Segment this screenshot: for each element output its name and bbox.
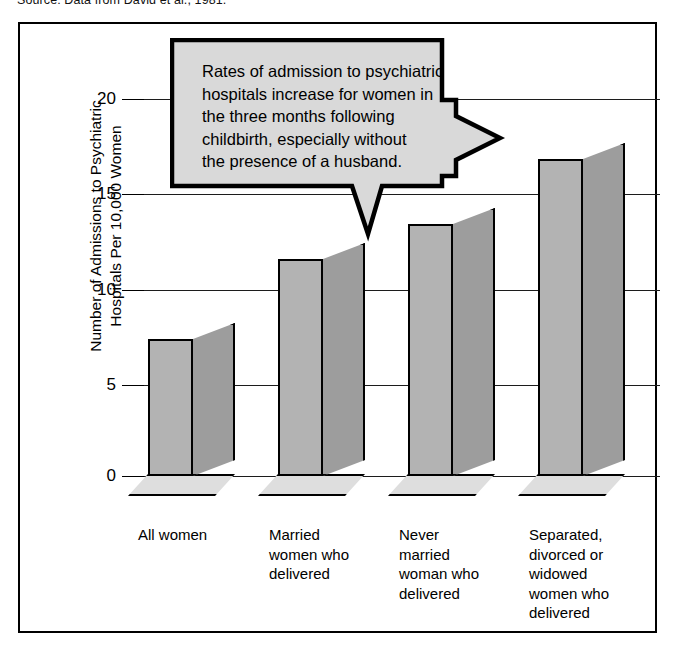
- callout-text-line: the presence of a husband.: [202, 150, 474, 173]
- y-axis-title-line-1: Number of Admissions to Psychiatric: [86, 76, 106, 376]
- category-label-line: All women: [138, 525, 248, 545]
- bar-base: [388, 474, 495, 496]
- category-label-line: Separated,: [529, 525, 649, 545]
- category-label-line: delivered: [529, 603, 649, 623]
- y-tick-mark-10: [122, 290, 144, 291]
- category-label-line: divorced or: [529, 545, 649, 565]
- category-label-line: women who: [529, 584, 649, 604]
- callout-text-line: the three months following: [202, 105, 474, 128]
- callout-text: Rates of admission to psychiatric hospit…: [202, 60, 474, 173]
- y-tick-label-0: 0: [82, 467, 116, 484]
- source-note: Source: Data from David et al., 1981.: [17, 0, 437, 11]
- category-label-separated-divorced-widowed: Separated, divorced or widowed women who…: [529, 525, 649, 623]
- callout-text-line: childbirth, especially without: [202, 128, 474, 151]
- bar-base: [518, 474, 625, 496]
- bar-base: [258, 474, 365, 496]
- y-tick-mark-15: [122, 194, 144, 195]
- category-label-line: woman who: [399, 564, 515, 584]
- y-tick-mark-20: [122, 99, 144, 100]
- category-label-line: widowed: [529, 564, 649, 584]
- bar-base: [128, 474, 235, 496]
- category-label-all-women: All women: [138, 525, 248, 545]
- y-tick-mark-5: [122, 385, 144, 386]
- category-label-line: Never: [399, 525, 515, 545]
- bar-front-face: [148, 339, 193, 476]
- bar-side-face: [323, 243, 365, 476]
- callout-text-line: hospitals increase for women in: [202, 83, 474, 106]
- category-label-line: Married: [269, 525, 385, 545]
- category-label-line: married: [399, 545, 515, 565]
- y-tick-label-5: 5: [82, 376, 116, 393]
- bar-front-face: [408, 224, 453, 476]
- category-label-line: delivered: [269, 564, 385, 584]
- category-label-married-women-delivered: Married women who delivered: [269, 525, 385, 584]
- chart-frame: Number of Admissions to Psychiatric Hosp…: [18, 22, 657, 633]
- y-axis-title-line-2: Hospitals Per 10,000 Women: [106, 76, 126, 376]
- y-axis-title: Number of Admissions to Psychiatric Hosp…: [86, 76, 126, 376]
- y-tick-label-15: 15: [82, 185, 116, 202]
- y-tick-mark-0: [122, 476, 144, 477]
- bar-side-face: [193, 323, 235, 476]
- category-label-line: delivered: [399, 584, 515, 604]
- y-tick-label-20: 20: [82, 90, 116, 107]
- category-label-never-married-delivered: Never married woman who delivered: [399, 525, 515, 603]
- y-tick-label-10: 10: [82, 281, 116, 298]
- callout-text-line: Rates of admission to psychiatric: [202, 60, 474, 83]
- plot-area: Number of Admissions to Psychiatric Hosp…: [20, 24, 659, 635]
- bar-front-face: [278, 259, 323, 476]
- callout-annotation: Rates of admission to psychiatric hospit…: [170, 38, 590, 253]
- category-label-line: women who: [269, 545, 385, 565]
